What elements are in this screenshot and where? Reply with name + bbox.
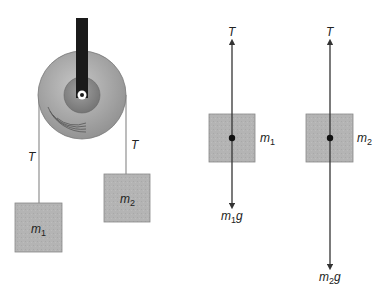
center-of-mass-m1 bbox=[229, 135, 235, 141]
rope-left-tension-label: T bbox=[28, 150, 37, 164]
tension-label-m2: T bbox=[326, 25, 335, 39]
weight-label-m2: m2g bbox=[319, 270, 341, 286]
atwood-diagram: T T m1 m2 T m1 m1g T m2 bbox=[0, 0, 386, 295]
mass-label-m1: m1 bbox=[260, 131, 275, 147]
center-of-mass-m2 bbox=[327, 135, 333, 141]
rope-right-tension-label: T bbox=[131, 138, 140, 152]
mass-label-m2: m2 bbox=[357, 131, 372, 147]
tension-label-m1: T bbox=[228, 25, 237, 39]
pulley-bracket bbox=[76, 18, 88, 98]
free-body-diagram-m1: T m1 m1g bbox=[209, 25, 275, 225]
pulley-system: T T m1 m2 bbox=[15, 18, 150, 252]
free-body-diagram-m2: T m2 m2g bbox=[306, 25, 372, 286]
weight-label-m1: m1g bbox=[221, 209, 243, 225]
